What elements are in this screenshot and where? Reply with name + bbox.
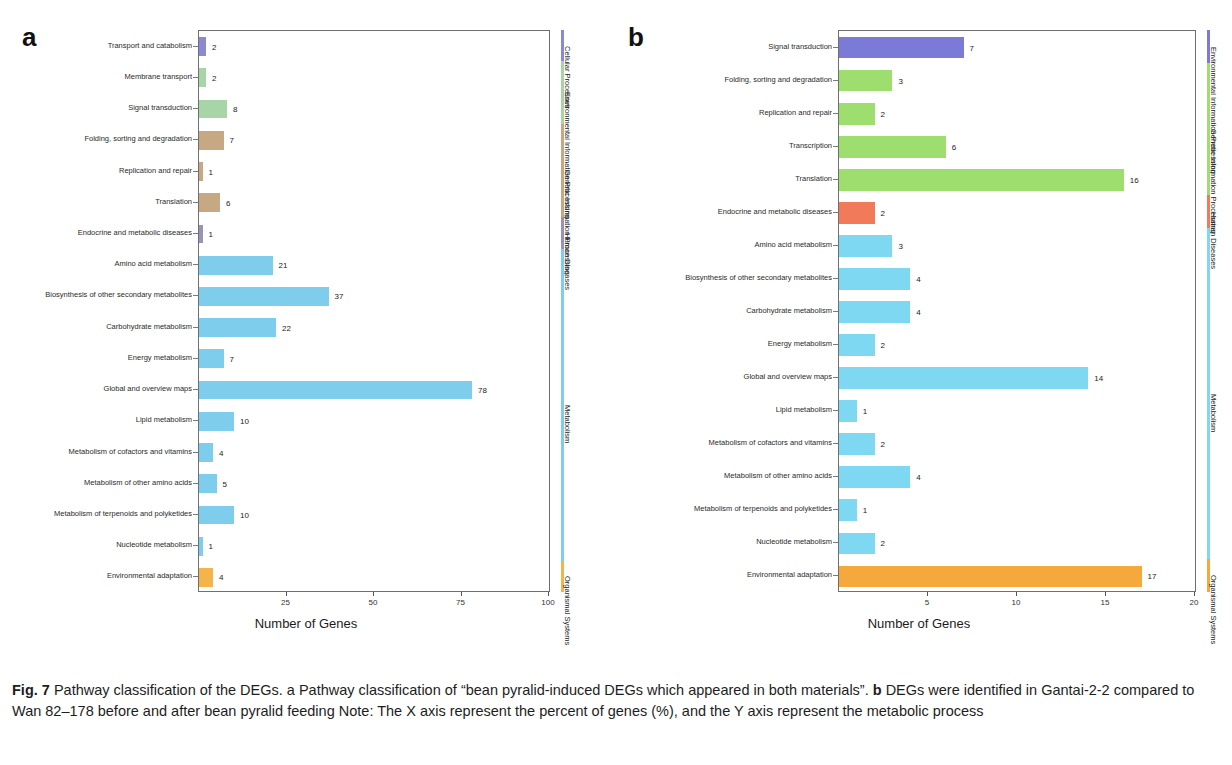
- panel-a-x-axis-title: Number of Genes: [8, 616, 604, 631]
- bar-value-label: 2: [212, 73, 216, 82]
- category-label: Global and overview maps: [744, 373, 832, 381]
- bar: [199, 318, 276, 337]
- panel-b-chart: Signal transductionFolding, sorting and …: [612, 30, 1226, 650]
- bar-value-label: 2: [881, 109, 885, 118]
- bar-value-label: 3: [898, 241, 902, 250]
- caption-panel-b-marker: b: [873, 682, 882, 698]
- bar-value-label: 7: [970, 43, 974, 52]
- category-label: Transcription: [789, 142, 832, 150]
- bar: [839, 169, 1124, 191]
- bar-value-label: 1: [209, 542, 213, 551]
- bar: [839, 433, 875, 455]
- x-axis-tick-label: 10: [1012, 598, 1021, 607]
- category-label: Nucleotide metabolism: [756, 539, 832, 547]
- bar-value-label: 4: [916, 473, 920, 482]
- class-group: Organismal Systems: [1206, 559, 1232, 592]
- bar: [839, 37, 964, 59]
- bar-value-label: 78: [478, 386, 487, 395]
- class-group-label: Metabolism: [1209, 394, 1217, 432]
- panel-b-x-axis-title: Number of Genes: [612, 616, 1226, 631]
- bar: [199, 256, 273, 275]
- category-label: Nucleotide metabolism: [116, 541, 192, 549]
- caption-figure-number: Fig. 7: [12, 682, 50, 698]
- bar-value-label: 10: [240, 510, 249, 519]
- category-label: Environmental adaptation: [107, 573, 192, 581]
- category-label: Folding, sorting and degradation: [84, 136, 192, 144]
- bar-value-label: 21: [279, 261, 288, 270]
- x-axis-tick-label: 20: [1190, 598, 1199, 607]
- bar: [839, 202, 875, 224]
- bar: [839, 334, 875, 356]
- bar-value-label: 4: [916, 308, 920, 317]
- category-label: Membrane transport: [124, 73, 192, 81]
- bar-value-label: 17: [1148, 572, 1157, 581]
- panel-b-class-strip: Environmental Information ProcessingGene…: [1206, 30, 1232, 592]
- bar-value-label: 2: [881, 208, 885, 217]
- x-axis-tick-label: 25: [281, 598, 290, 607]
- x-axis-tick: [286, 592, 287, 596]
- bar: [199, 381, 472, 400]
- x-axis-tick: [373, 592, 374, 596]
- bar-value-label: 5: [223, 479, 227, 488]
- caption-text-1: Pathway classification of the DEGs. a Pa…: [50, 682, 873, 698]
- class-group: Cellular Processes: [560, 30, 604, 61]
- category-label: Signal transduction: [768, 43, 832, 51]
- category-label: Transport and catabolism: [108, 42, 192, 50]
- bar: [199, 474, 217, 493]
- x-axis-tick: [461, 592, 462, 596]
- bar: [199, 37, 206, 56]
- bar-value-label: 16: [1130, 175, 1139, 184]
- bar-value-label: 4: [916, 274, 920, 283]
- bar: [199, 287, 329, 306]
- category-label: Replication and repair: [119, 167, 192, 175]
- figure-caption: Fig. 7 Pathway classification of the DEG…: [12, 680, 1220, 722]
- class-group-label: Metabolism: [563, 405, 571, 443]
- panel-a-plot-area: 228716121372277810451014: [198, 30, 550, 592]
- bar-value-label: 1: [209, 167, 213, 176]
- bar: [199, 537, 203, 556]
- class-group: Metabolism: [560, 249, 604, 561]
- panel-b-plot-area: 73261623442141241217: [838, 30, 1196, 592]
- x-axis-tick: [1194, 592, 1195, 596]
- bar-value-label: 6: [226, 198, 230, 207]
- class-group: Genetic Information Processing: [1206, 63, 1232, 195]
- category-label: Metabolism of cofactors and vitamins: [69, 448, 192, 456]
- x-axis-tick: [548, 592, 549, 596]
- class-group: Environmental Information Processing: [1206, 30, 1232, 63]
- category-label: Carbohydrate metabolism: [106, 323, 192, 331]
- bar: [199, 225, 203, 244]
- bar: [839, 268, 910, 290]
- bar: [199, 68, 206, 87]
- bar: [199, 162, 203, 181]
- category-label: Energy metabolism: [128, 354, 192, 362]
- category-label: Global and overview maps: [104, 385, 192, 393]
- category-label: Lipid metabolism: [776, 406, 832, 414]
- category-label: Amino acid metabolism: [754, 241, 832, 249]
- panel-b-category-labels: Signal transductionFolding, sorting and …: [612, 30, 838, 592]
- category-label: Metabolism of other amino acids: [84, 479, 192, 487]
- bar-value-label: 2: [881, 539, 885, 548]
- bar: [839, 566, 1142, 588]
- category-label: Metabolism of terpenoids and polyketides: [54, 510, 192, 518]
- bar: [839, 499, 857, 521]
- bar: [199, 349, 224, 368]
- bar-value-label: 22: [282, 323, 291, 332]
- bar: [199, 412, 234, 431]
- bar-value-label: 1: [863, 506, 867, 515]
- bar: [199, 100, 227, 119]
- bar: [199, 506, 234, 525]
- category-label: Carbohydrate metabolism: [746, 307, 832, 315]
- bar-value-label: 4: [219, 573, 223, 582]
- panel-a-x-axis: Number of Genes 255075100: [8, 592, 604, 632]
- bar-value-label: 10: [240, 417, 249, 426]
- x-axis-tick-label: 5: [925, 598, 929, 607]
- bar: [839, 367, 1088, 389]
- bar-value-label: 7: [230, 136, 234, 145]
- figure-container: a Transport and catabolismMembrane trans…: [0, 0, 1232, 765]
- category-label: Folding, sorting and degradation: [724, 76, 832, 84]
- panel-b-x-axis: Number of Genes 5101520: [612, 592, 1226, 632]
- bar: [839, 136, 946, 158]
- bar-value-label: 4: [219, 448, 223, 457]
- class-group: Environmental Information Processing: [560, 61, 604, 123]
- bar: [199, 131, 224, 150]
